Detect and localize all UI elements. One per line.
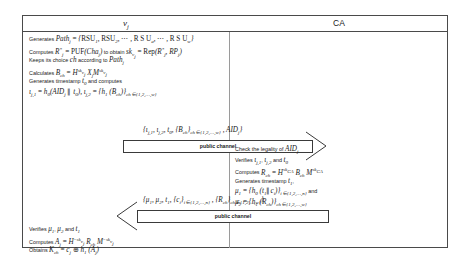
arrow-head-left-icon [109,200,151,232]
vehicle-label-subscript: j [127,23,129,30]
step-generate-path: Generates Pathj = {RSU1, RSU2, ⋯ , R S U… [29,34,194,45]
message-1-label: {ιj,1, ιj,2, t0, {Bch}ch ∈{1,2,…,w} , AI… [143,126,242,135]
step-compute-a: Computes Aj = H−skvj Rch M−skvj [29,235,114,246]
message-arrow-ca-to-vehicle: {μ1, μ2, t1, {ci}i ∈{1,2,…,n} , {Rch}ch … [109,196,345,230]
step-compute-iota: ιj,1 = h0(AIDj ∥ t0), ιj,2 = {h1 (Bch)}c… [29,87,194,98]
step-obtain-key: Obtains Kch = cj ⊕ h1 (Aj) [29,245,114,256]
vehicle-steps-phase2: Verifies μ1, μ2 and t1 Computes Aj = H−s… [29,224,114,256]
column-header-ca: CA [229,17,449,30]
step-verify-mu: Verifies μ1, μ2 and t1 [29,224,114,235]
step-verify-iota: Verifies ιj,1, ιj,2 and t0 [235,155,323,166]
protocol-diagram: vj CA Generates Pathj = {RSU1, RSU2, ⋯ ,… [22,15,448,248]
step-calculate-b: Calculates Bch = Hskvj XjMskvj [29,66,194,77]
diagram-header: vj CA [23,16,447,32]
step-generate-timestamp-t1: Generates timestamp t1, [235,176,323,187]
column-header-vehicle: vj [23,17,229,33]
step-compute-r: Computes Rch = HskCA Bch MskCA [235,165,323,176]
ca-steps-phase1: Check the legality of AIDj Verifies ιj,1… [235,144,323,186]
message-2-label: {μ1, μ2, t1, {ci}i ∈{1,2,…,n} , {Rch}ch … [143,196,264,205]
step-mu1: μ1 = {h0 (t1∥ci)}i ∈{1,2,…,n} and [235,186,317,197]
step-generate-timestamp-t0: Generates timestamp t0 and computes [29,76,194,87]
step-check-legality: Check the legality of AIDj [235,144,323,155]
step-compute-puf: Computes R*j = PUF(Chaj) to obtain skvj … [29,45,194,56]
public-channel-box-2: public channel [137,210,329,223]
step-keep-choice: Keeps its choice ch according to Pathj [29,55,194,66]
vehicle-steps-phase1: Generates Pathj = {RSU1, RSU2, ⋯ , R S U… [29,34,194,98]
